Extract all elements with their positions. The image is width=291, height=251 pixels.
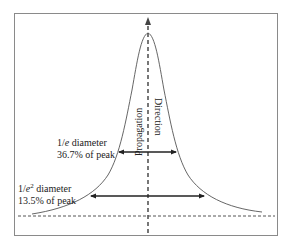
one-over-e-percent: 36.7% of peak <box>57 149 115 160</box>
one-over-e-squared-prefix: 1/ <box>18 183 26 194</box>
one-over-e-prefix: 1/ <box>57 137 65 148</box>
beam-profile-figure <box>0 0 291 251</box>
one-over-e-squared-label: 1/e2 diameter 13.5% of peak <box>18 183 76 207</box>
one-over-e-squared-suffix: diameter <box>34 183 71 194</box>
propagation-label: Propagation <box>133 108 144 156</box>
one-over-e-squared-percent: 13.5% of peak <box>18 195 76 206</box>
direction-label: Direction <box>153 98 164 136</box>
one-over-e-label: 1/e diameter 36.7% of peak <box>57 137 115 161</box>
one-over-e-suffix: diameter <box>69 137 106 148</box>
propagation-arrow-head-icon <box>145 17 151 25</box>
